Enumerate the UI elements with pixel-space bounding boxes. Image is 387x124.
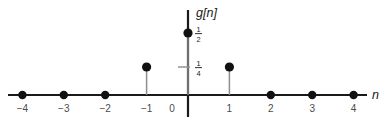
- sample-dot-n-minus-2: [101, 91, 109, 99]
- x-tick-label-4: 4: [351, 103, 357, 114]
- x-tick-label-3: 3: [309, 103, 315, 114]
- y-tick-label-half-numerator: 1: [196, 25, 200, 34]
- y-tick-label-quarter-denominator: 4: [196, 69, 200, 78]
- x-tick-label-minus-4: −4: [17, 103, 29, 114]
- x-tick-label-minus-1: −1: [141, 103, 153, 114]
- sample-dot-n-minus-4: [18, 91, 26, 99]
- y-tick-label-half: 1 2: [195, 25, 202, 44]
- x-tick-label-2: 2: [268, 103, 274, 114]
- x-tick-label-minus-3: −3: [58, 103, 70, 114]
- stem-plot-canvas: −4 −3 −2 −1 0 1 2 3 4 1 2 1 4 g[n] n: [0, 0, 387, 124]
- y-tick-label-half-denominator: 2: [196, 35, 200, 44]
- sample-dot-n-4: [349, 91, 357, 99]
- sample-dot-n-2: [267, 91, 275, 99]
- y-axis-label: g[n]: [196, 6, 217, 20]
- sample-dot-n-minus-1: [142, 62, 151, 71]
- sample-dot-n-0: [183, 28, 192, 37]
- x-tick-label-1: 1: [227, 103, 233, 114]
- y-tick-label-quarter-numerator: 1: [196, 59, 200, 68]
- x-axis-label: n: [372, 88, 379, 102]
- x-tick-label-0: 0: [169, 103, 175, 114]
- x-tick-label-minus-2: −2: [99, 103, 111, 114]
- sample-dot-n-1: [225, 62, 234, 71]
- y-tick-label-quarter: 1 4: [195, 59, 202, 78]
- stem-plot-figure: −4 −3 −2 −1 0 1 2 3 4 1 2 1 4 g[n] n: [0, 0, 387, 124]
- sample-dot-n-3: [308, 91, 316, 99]
- sample-dot-n-minus-3: [60, 91, 68, 99]
